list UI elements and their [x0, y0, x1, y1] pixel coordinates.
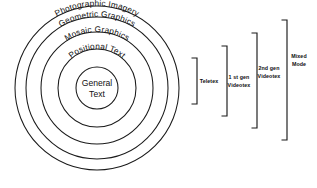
ring-circle-positional-text — [58, 49, 136, 127]
bracket-shape-teletex — [192, 58, 198, 104]
bracket-1st-gen-videotex: 1 st gen Videotex — [222, 46, 251, 116]
bracket-label-2nd-gen-videotex-line-2: Videotex — [258, 73, 281, 79]
bracket-label-mixed-mode-line-1: Mixed — [291, 53, 307, 59]
ring-label-mosaic-graphics: Mosaic Graphics — [63, 24, 132, 43]
bracket-shape-1st-gen-videotex — [222, 46, 228, 116]
bracket-mixed-mode: Mixed Mode — [282, 20, 307, 140]
bracket-2nd-gen-videotex: 2nd gen Videotex — [252, 33, 281, 128]
concentric-rings-diagram: Photographic Imagery Geometric Graphics … — [0, 0, 317, 188]
ring-label-positional-text: Positional Text — [66, 41, 128, 61]
ring-circle-general-text — [76, 67, 118, 109]
diagram-page: Photographic Imagery Geometric Graphics … — [0, 0, 317, 188]
general-text-line-2: Text — [89, 89, 105, 99]
ring-labels-group: Photographic Imagery Geometric Graphics … — [53, 0, 142, 60]
bracket-label-teletex: Teletex — [200, 78, 219, 84]
bracket-teletex: Teletex — [192, 58, 219, 104]
bracket-label-mixed-mode-line-2: Mode — [292, 61, 306, 67]
bracket-shape-2nd-gen-videotex — [252, 33, 258, 128]
general-text-line-1: General — [82, 78, 113, 88]
ring-circle-geometric-graphics — [26, 17, 168, 159]
bracket-shape-mixed-mode — [282, 20, 288, 140]
bracket-label-1st-gen-videotex-line-2: Videotex — [228, 82, 251, 88]
bracket-label-1st-gen-videotex-line-1: 1 st gen — [229, 74, 250, 80]
bracket-label-2nd-gen-videotex-line-1: 2nd gen — [258, 65, 279, 71]
ring-label-general-text: General Text — [82, 78, 113, 99]
